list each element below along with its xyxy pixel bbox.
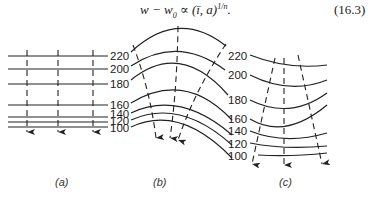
caption-c: (c) <box>279 176 292 188</box>
caption-a: (a) <box>55 176 69 188</box>
caption-b: (b) <box>153 176 167 188</box>
panel-b <box>131 26 232 158</box>
svg-text:140: 140 <box>228 125 247 137</box>
contour-diagram: 220 200 180 160 140 120 100 220 200 180 … <box>0 0 382 198</box>
panel-c <box>250 55 327 165</box>
svg-text:200: 200 <box>110 63 129 75</box>
svg-text:220: 220 <box>228 50 247 62</box>
svg-text:100: 100 <box>228 150 247 162</box>
svg-text:120: 120 <box>228 138 247 150</box>
panel-a <box>8 50 108 132</box>
svg-text:180: 180 <box>110 78 129 90</box>
svg-text:100: 100 <box>110 122 129 134</box>
contour-labels-c: 220 200 180 160 140 120 100 <box>228 50 247 162</box>
svg-text:160: 160 <box>228 113 247 125</box>
contour-labels-ab: 220 200 180 160 140 120 100 <box>110 50 129 134</box>
svg-text:200: 200 <box>228 69 247 81</box>
svg-text:220: 220 <box>110 50 129 62</box>
svg-text:180: 180 <box>228 94 247 106</box>
